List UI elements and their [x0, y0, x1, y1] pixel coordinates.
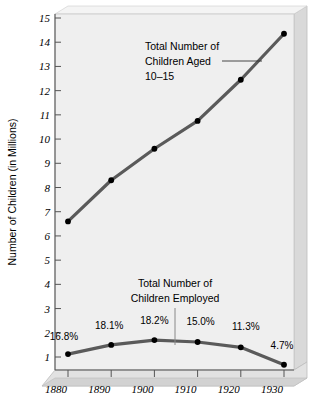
- y-tick-label: 3: [44, 303, 51, 315]
- data-point: [108, 177, 114, 183]
- y-axis-title: Number of Children (in Millions): [6, 118, 18, 265]
- data-point: [195, 118, 201, 124]
- data-point: [238, 77, 244, 83]
- percent-label: 15.0%: [186, 316, 214, 327]
- data-point: [238, 344, 244, 350]
- y-tick-label: 4: [45, 278, 51, 290]
- y-tick-label: 5: [45, 254, 51, 266]
- x-tick-label: 1910: [175, 383, 198, 395]
- x-tick-label: 1900: [131, 383, 154, 395]
- x-tick-label: 1890: [88, 383, 111, 395]
- line-chart: 123456789101112131415 188018901900191019…: [0, 0, 321, 412]
- y-tick-label: 15: [39, 12, 51, 24]
- annotation-upper-line3: 10–15: [145, 70, 174, 82]
- percent-label: 18.2%: [140, 315, 168, 326]
- annotation-upper-line1: Total Number of: [145, 40, 219, 52]
- y-tick-label: 13: [39, 60, 51, 72]
- data-point: [195, 339, 201, 345]
- data-point: [65, 351, 71, 357]
- x-tick-label: 1930: [261, 383, 284, 395]
- percent-label: 16.8%: [50, 331, 78, 342]
- data-point: [108, 342, 114, 348]
- panel-top-face: [55, 6, 307, 14]
- annotation-upper-line2: Children Aged: [145, 55, 211, 67]
- y-tick-label: 1: [45, 351, 51, 363]
- y-tick-label: 9: [45, 157, 51, 169]
- y-tick-label: 10: [39, 133, 51, 145]
- data-point: [65, 219, 71, 225]
- data-point: [281, 362, 287, 368]
- annotation-lower-line1: Total Number of: [138, 277, 212, 289]
- y-tick-label: 11: [40, 109, 50, 121]
- data-point: [152, 337, 158, 343]
- y-tick-label: 8: [45, 182, 51, 194]
- y-tick-label: 7: [45, 206, 51, 218]
- y-tick-label: 14: [39, 36, 51, 48]
- x-tick-label: 1880: [45, 383, 68, 395]
- percent-label: 18.1%: [95, 320, 123, 331]
- percent-label: 11.3%: [232, 321, 260, 332]
- y-tick-label: 6: [45, 230, 51, 242]
- panel-right-face: [294, 6, 307, 370]
- y-tick-label: 12: [39, 85, 51, 97]
- chart-container: 123456789101112131415 188018901900191019…: [0, 0, 321, 412]
- percent-label: 4.7%: [271, 340, 294, 351]
- data-point: [281, 31, 287, 37]
- x-tick-label: 1920: [218, 383, 241, 395]
- annotation-lower-line2: Children Employed: [131, 292, 220, 304]
- data-point: [152, 146, 158, 152]
